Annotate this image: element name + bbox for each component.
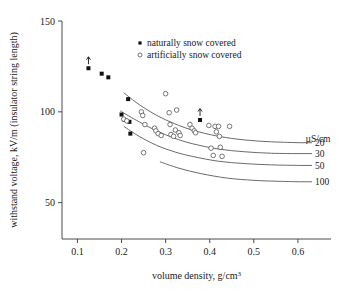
data-point-artificial — [163, 91, 168, 96]
x-axis-tick-label: 0.5 — [248, 246, 261, 257]
withstand-voltage-scatter-chart: 501001500.10.20.30.40.50.6withstand volt… — [0, 0, 345, 295]
x-axis-tick-label: 0.6 — [292, 246, 305, 257]
x-axis-title: volume density, g/cm3 — [152, 270, 242, 282]
legend-label: artificially snow covered — [147, 50, 242, 60]
data-point-artificial — [140, 113, 145, 118]
data-point-artificial — [211, 153, 216, 158]
data-point-natural — [106, 75, 110, 79]
x-axis-tick-label: 0.2 — [115, 246, 128, 257]
y-axis-tick-label: 150 — [40, 16, 55, 27]
data-point-natural — [120, 113, 124, 117]
data-point-artificial — [214, 130, 219, 135]
curve-label-50: 50 — [315, 161, 325, 171]
chart-container: 501001500.10.20.30.40.50.6withstand volt… — [0, 0, 345, 295]
legend-marker-open-circle-icon — [138, 53, 142, 57]
data-point-artificial — [178, 133, 183, 138]
data-point-artificial — [141, 150, 146, 155]
data-point-artificial — [171, 134, 176, 139]
conductivity-curve-20 — [124, 93, 300, 143]
y-axis-title: withstand voltage, kV/m (insulator strin… — [8, 32, 20, 228]
data-point-natural — [86, 66, 90, 70]
data-point-natural — [198, 118, 202, 122]
data-point-artificial — [209, 146, 214, 151]
y-axis-tick-label: 50 — [45, 197, 55, 208]
data-point-artificial — [218, 145, 223, 150]
x-axis-tick-label: 0.1 — [71, 246, 84, 257]
data-point-artificial — [220, 154, 225, 159]
legend-label: naturally snow covered — [147, 38, 236, 48]
greater-than-arrow-icon — [198, 109, 202, 117]
data-point-artificial — [159, 133, 164, 138]
greater-than-arrow-icon — [86, 57, 90, 65]
data-point-natural — [100, 72, 104, 76]
legend: naturally snow coveredartificially snow … — [138, 38, 242, 60]
curve-labels-group: µS/cm203050100 — [300, 134, 331, 187]
curve-label-20: 20 — [315, 138, 325, 148]
data-point-artificial — [207, 123, 212, 128]
y-axis-tick-label: 100 — [40, 106, 55, 117]
data-point-artificial — [167, 110, 172, 115]
data-point-artificial — [216, 124, 221, 129]
data-point-artificial — [217, 134, 222, 139]
legend-marker-filled-square-icon — [138, 41, 141, 44]
curve-label-100: 100 — [315, 177, 330, 187]
data-point-artificial — [125, 119, 130, 124]
x-axis-tick-label: 0.3 — [159, 246, 172, 257]
x-axis-tick-label: 0.4 — [203, 246, 216, 257]
data-point-artificial — [143, 122, 148, 127]
data-point-artificial — [193, 130, 198, 135]
data-point-natural — [126, 97, 130, 101]
data-point-artificial — [227, 124, 232, 129]
curve-label-30: 30 — [315, 149, 325, 159]
data-point-natural — [128, 132, 132, 136]
x-axis-title-exponent: 3 — [238, 270, 242, 278]
x-axis-title-base: volume density, g/cm — [152, 270, 238, 281]
data-point-artificial — [174, 108, 179, 113]
data-points-group — [86, 57, 231, 159]
fitted-curves-group — [120, 93, 300, 182]
data-point-artificial — [168, 122, 173, 127]
